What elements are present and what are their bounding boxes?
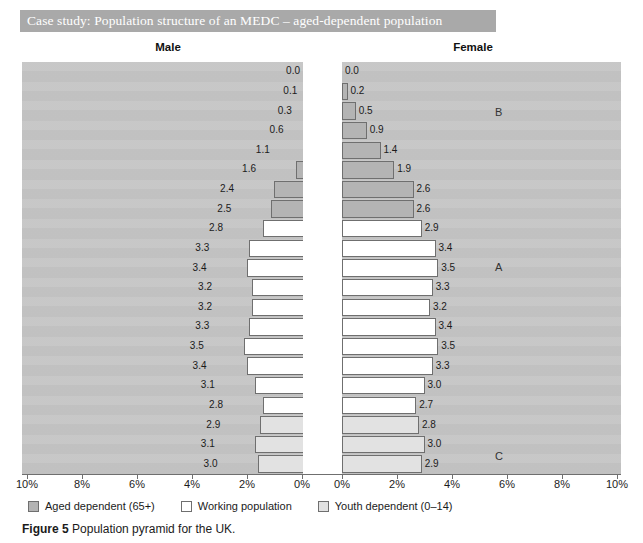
axis-tick-label: 4% bbox=[444, 478, 460, 490]
x-axis bbox=[22, 474, 621, 475]
axis-tick-label: 2% bbox=[239, 478, 255, 490]
male-value-label: 0.1 bbox=[283, 84, 297, 98]
female-value-label: 3.4 bbox=[439, 319, 453, 333]
annotation-label-b: B bbox=[495, 106, 502, 118]
axis-tick-label: 0% bbox=[334, 478, 350, 490]
male-value-label: 0.0 bbox=[286, 64, 300, 78]
female-value-label: 3.3 bbox=[436, 359, 450, 373]
female-value-label: 2.9 bbox=[425, 457, 439, 471]
female-bar bbox=[342, 142, 381, 159]
female-value-label: 0.5 bbox=[359, 104, 373, 118]
female-bar bbox=[342, 220, 422, 237]
female-value-label: 3.2 bbox=[433, 300, 447, 314]
case-study-banner: Case study: Population structure of an M… bbox=[20, 10, 496, 32]
female-bar bbox=[342, 455, 422, 472]
figure-caption: Figure 5 Population pyramid for the UK. bbox=[22, 522, 235, 536]
axis-tick-label: 6% bbox=[499, 478, 515, 490]
female-value-label: 3.0 bbox=[428, 437, 442, 451]
legend-item-youth: Youth dependent (0–14) bbox=[318, 500, 453, 512]
female-bar bbox=[342, 377, 425, 394]
axis-tick-label: 0% bbox=[294, 478, 310, 490]
male-value-label: 2.8 bbox=[209, 398, 223, 412]
male-value-label: 0.3 bbox=[278, 104, 292, 118]
male-value-label: 3.3 bbox=[195, 241, 209, 255]
female-value-label: 2.6 bbox=[417, 182, 431, 196]
female-bar bbox=[342, 181, 414, 198]
annotation-label-a: A bbox=[495, 261, 502, 273]
legend-item-aged: Aged dependent (65+) bbox=[28, 500, 155, 512]
female-bar bbox=[342, 161, 394, 178]
male-value-label: 3.2 bbox=[198, 300, 212, 314]
female-bar bbox=[342, 357, 433, 374]
age-group-label-column bbox=[303, 62, 342, 474]
male-column-heading: Male bbox=[155, 41, 181, 53]
female-value-label: 3.5 bbox=[441, 339, 455, 353]
axis-tick-label: 10% bbox=[16, 478, 38, 490]
female-value-label: 1.9 bbox=[397, 162, 411, 176]
male-value-label: 3.2 bbox=[198, 280, 212, 294]
female-value-label: 2.8 bbox=[422, 418, 436, 432]
female-bar bbox=[342, 397, 416, 414]
axis-tick-label: 10% bbox=[606, 478, 628, 490]
male-value-label: 3.1 bbox=[201, 437, 215, 451]
male-value-label: 3.3 bbox=[195, 319, 209, 333]
female-bar bbox=[342, 122, 367, 139]
female-value-label: 3.0 bbox=[428, 378, 442, 392]
female-value-label: 2.6 bbox=[417, 202, 431, 216]
female-value-label: 3.5 bbox=[441, 261, 455, 275]
chart-legend: Aged dependent (65+)Working populationYo… bbox=[28, 500, 452, 512]
annotation-label-c: C bbox=[495, 450, 503, 462]
figure-number: Figure 5 bbox=[22, 522, 69, 536]
legend-label-aged: Aged dependent (65+) bbox=[45, 500, 155, 512]
female-bar bbox=[342, 436, 425, 453]
female-value-label: 0.0 bbox=[345, 64, 359, 78]
female-bar bbox=[342, 279, 433, 296]
legend-swatch-working bbox=[181, 501, 192, 512]
female-value-label: 3.3 bbox=[436, 280, 450, 294]
male-value-label: 2.5 bbox=[217, 202, 231, 216]
female-value-label: 0.9 bbox=[370, 123, 384, 137]
male-value-label: 1.1 bbox=[256, 143, 270, 157]
female-column-heading: Female bbox=[453, 41, 493, 53]
legend-swatch-aged bbox=[28, 501, 39, 512]
male-value-label: 3.1 bbox=[201, 378, 215, 392]
male-value-label: 3.4 bbox=[193, 261, 207, 275]
female-value-label: 3.4 bbox=[439, 241, 453, 255]
population-pyramid-plot: 0.00.0100+0.10.295–990.30.590–940.60.985… bbox=[22, 62, 621, 474]
axis-tick-label: 6% bbox=[129, 478, 145, 490]
male-value-label: 3.5 bbox=[190, 339, 204, 353]
male-value-label: 3.4 bbox=[193, 359, 207, 373]
axis-tick-label: 8% bbox=[554, 478, 570, 490]
male-value-label: 0.6 bbox=[270, 123, 284, 137]
female-bar bbox=[342, 102, 356, 119]
male-value-label: 2.4 bbox=[220, 182, 234, 196]
legend-label-youth: Youth dependent (0–14) bbox=[335, 500, 453, 512]
female-value-label: 2.9 bbox=[425, 221, 439, 235]
female-bar bbox=[342, 338, 438, 355]
figure-caption-text: Population pyramid for the UK. bbox=[72, 522, 235, 536]
female-bar bbox=[342, 318, 436, 335]
female-bar bbox=[342, 259, 438, 276]
female-value-label: 2.7 bbox=[419, 398, 433, 412]
axis-tick-label: 2% bbox=[389, 478, 405, 490]
female-bar bbox=[342, 200, 414, 217]
female-bar bbox=[342, 83, 348, 100]
male-value-label: 2.8 bbox=[209, 221, 223, 235]
axis-tick-label: 8% bbox=[74, 478, 90, 490]
female-bar bbox=[342, 416, 419, 433]
legend-swatch-youth bbox=[318, 501, 329, 512]
female-bar bbox=[342, 240, 436, 257]
legend-label-working: Working population bbox=[198, 500, 292, 512]
axis-tick-label: 4% bbox=[184, 478, 200, 490]
female-value-label: 0.2 bbox=[351, 84, 365, 98]
male-value-label: 3.0 bbox=[204, 457, 218, 471]
legend-item-working: Working population bbox=[181, 500, 292, 512]
male-value-label: 2.9 bbox=[206, 418, 220, 432]
female-value-label: 1.4 bbox=[384, 143, 398, 157]
male-value-label: 1.6 bbox=[242, 162, 256, 176]
female-bar bbox=[342, 299, 430, 316]
